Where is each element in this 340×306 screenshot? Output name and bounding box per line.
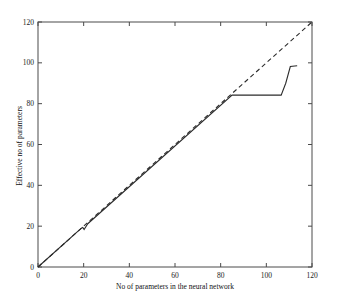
reference-line-series	[38, 22, 312, 267]
x-axis-title: No of parameters in the neural network	[116, 282, 234, 291]
x-tick-label: 0	[36, 271, 40, 280]
y-axis-ticks: 020406080100120	[23, 18, 312, 272]
data-series-group	[38, 22, 312, 267]
y-tick-label: 0	[30, 263, 34, 272]
figure-container: 020406080100120 020406080100120 No of pa…	[0, 0, 340, 306]
y-tick-label: 60	[27, 140, 35, 149]
y-tick-label: 80	[27, 99, 35, 108]
x-tick-label: 80	[217, 271, 225, 280]
y-tick-label: 20	[27, 222, 35, 231]
y-tick-label: 120	[23, 18, 35, 27]
line-chart: 020406080100120 020406080100120 No of pa…	[0, 0, 340, 306]
x-tick-label: 100	[261, 271, 273, 280]
effective-parameters-series	[38, 66, 297, 267]
y-tick-label: 100	[23, 58, 35, 67]
x-axis-ticks: 020406080100120	[36, 22, 318, 280]
y-tick-label: 40	[27, 181, 35, 190]
x-tick-label: 20	[80, 271, 88, 280]
y-axis-title: Effective no of parameters	[15, 106, 24, 186]
x-tick-label: 120	[306, 271, 318, 280]
x-tick-label: 40	[126, 271, 134, 280]
x-tick-label: 60	[171, 271, 179, 280]
